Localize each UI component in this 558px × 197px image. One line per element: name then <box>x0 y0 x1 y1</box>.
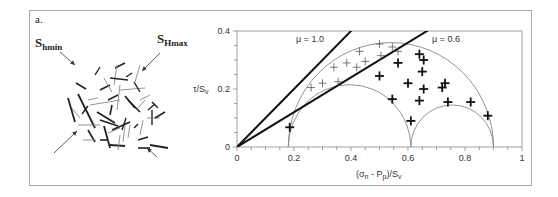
fracture-line <box>100 120 118 126</box>
shmax-label: SHmax <box>157 31 188 48</box>
fracture-line <box>104 78 112 92</box>
fracture-lines <box>68 63 168 150</box>
fracture-line <box>155 112 165 118</box>
fracture-line <box>134 124 138 128</box>
fracture-line <box>104 126 110 148</box>
shmin-label: Shmin <box>35 35 62 52</box>
fracture-line <box>110 78 128 80</box>
fracture-line <box>90 100 120 105</box>
fracture-line <box>150 145 168 148</box>
fracture-line <box>95 67 100 75</box>
fracture-line <box>76 83 86 89</box>
fracture-line <box>117 85 120 110</box>
fracture-line <box>128 100 140 112</box>
fracture-line <box>108 95 118 100</box>
fracture-line <box>135 65 140 82</box>
fracture-line <box>118 135 120 150</box>
fracture-line <box>134 82 140 92</box>
fracture-line <box>128 125 130 138</box>
fracture-line <box>140 95 150 100</box>
fracture-schematic: Shmin SHmax <box>0 0 230 197</box>
fracture-line <box>126 73 132 77</box>
shmax-arrow-bottom-left <box>54 131 77 153</box>
fracture-line <box>110 105 112 115</box>
fracture-line <box>140 120 143 135</box>
fracture-line <box>88 98 98 100</box>
fracture-line <box>138 100 145 108</box>
fracture-line <box>120 88 145 90</box>
fracture-line <box>110 145 125 146</box>
fracture-line <box>138 137 148 140</box>
